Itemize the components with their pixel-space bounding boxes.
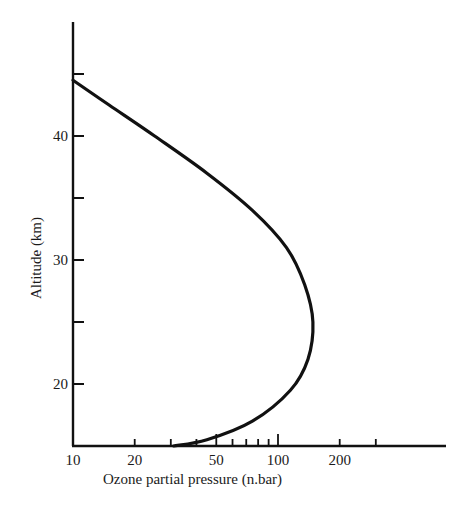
x-tick-label: 50 <box>209 452 224 468</box>
x-tick-label: 100 <box>267 452 290 468</box>
ozone-profile-curve <box>73 80 313 446</box>
y-axis-ticks: 203040 <box>53 74 84 392</box>
x-tick-label: 20 <box>127 452 142 468</box>
x-axis-title: Ozone partial pressure (n.bar) <box>103 471 282 488</box>
axes <box>72 22 446 446</box>
x-tick-label: 200 <box>328 452 351 468</box>
y-axis-title: Altitude (km) <box>28 217 45 299</box>
y-tick-label: 20 <box>53 376 68 392</box>
x-tick-label: 10 <box>66 452 81 468</box>
y-tick-label: 40 <box>53 128 68 144</box>
x-axis-ticks: 102050100200 <box>66 434 376 468</box>
y-tick-label: 30 <box>53 252 68 268</box>
ozone-chart: 203040 102050100200 Ozone partial pressu… <box>0 0 460 510</box>
